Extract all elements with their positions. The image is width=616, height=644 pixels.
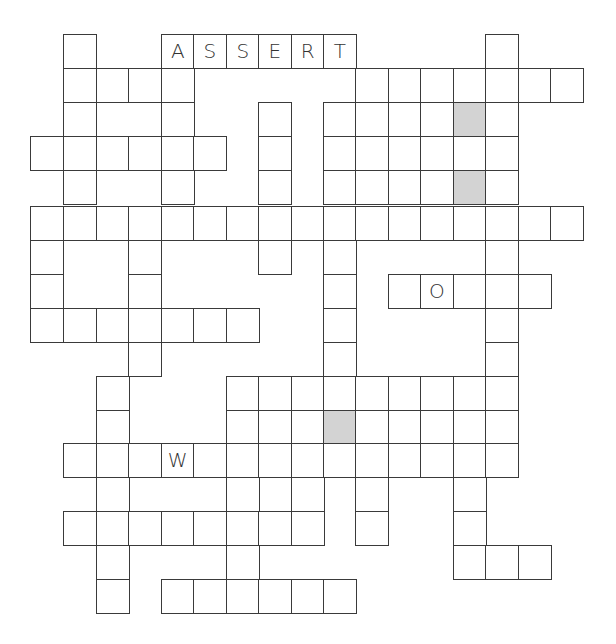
crossword-cell[interactable] [30, 240, 64, 275]
crossword-cell[interactable] [420, 170, 454, 205]
crossword-cell[interactable] [96, 206, 130, 241]
crossword-cell[interactable] [323, 308, 357, 343]
crossword-cell[interactable] [355, 68, 389, 103]
crossword-cell[interactable] [161, 136, 195, 171]
crossword-cell[interactable] [128, 240, 162, 275]
crossword-cell[interactable] [291, 410, 325, 445]
crossword-cell[interactable]: R [291, 34, 325, 69]
crossword-cell[interactable] [193, 136, 227, 171]
crossword-cell[interactable] [453, 410, 487, 445]
crossword-cell[interactable] [485, 376, 519, 411]
crossword-cell[interactable] [161, 68, 195, 103]
crossword-cell[interactable] [193, 206, 227, 241]
crossword-cell[interactable] [226, 410, 260, 445]
crossword-cell[interactable] [323, 443, 357, 478]
crossword-cell[interactable] [453, 477, 487, 512]
crossword-cell[interactable] [161, 206, 195, 241]
crossword-cell[interactable] [485, 443, 519, 478]
crossword-cell[interactable] [485, 545, 519, 580]
crossword-cell[interactable] [63, 308, 97, 343]
crossword-cell[interactable] [355, 443, 389, 478]
crossword-cell[interactable] [128, 274, 162, 309]
crossword-cell[interactable] [485, 274, 519, 309]
crossword-cell[interactable] [518, 545, 552, 580]
crossword-cell[interactable] [128, 443, 162, 478]
crossword-cell[interactable]: S [226, 34, 260, 69]
crossword-cell[interactable] [323, 102, 357, 137]
crossword-cell[interactable] [226, 443, 260, 478]
crossword-cell[interactable] [518, 68, 552, 103]
crossword-cell[interactable] [388, 206, 422, 241]
crossword-cell[interactable] [63, 136, 97, 171]
crossword-cell[interactable] [420, 136, 454, 171]
crossword-cell[interactable] [258, 136, 292, 171]
crossword-cell[interactable] [63, 34, 97, 69]
crossword-cell[interactable] [258, 376, 292, 411]
crossword-cell[interactable] [193, 579, 227, 614]
crossword-cell[interactable] [128, 308, 162, 343]
crossword-cell[interactable] [485, 240, 519, 275]
crossword-cell[interactable] [96, 68, 130, 103]
crossword-cell[interactable] [226, 477, 260, 512]
crossword-cell[interactable] [30, 206, 64, 241]
crossword-cell[interactable] [226, 206, 260, 241]
crossword-cell[interactable] [128, 68, 162, 103]
crossword-cell[interactable] [258, 579, 292, 614]
crossword-cell[interactable] [355, 410, 389, 445]
crossword-cell[interactable] [323, 376, 357, 411]
crossword-cell[interactable] [355, 477, 389, 512]
crossword-cell[interactable] [420, 68, 454, 103]
crossword-cell[interactable] [128, 511, 162, 546]
crossword-cell[interactable] [258, 102, 292, 137]
crossword-cell[interactable] [485, 206, 519, 241]
crossword-cell[interactable]: W [161, 443, 195, 478]
crossword-cell[interactable] [30, 274, 64, 309]
crossword-cell[interactable]: T [323, 34, 357, 69]
crossword-cell[interactable] [485, 170, 519, 205]
crossword-cell[interactable] [518, 274, 552, 309]
crossword-cell[interactable] [388, 68, 422, 103]
crossword-cell[interactable] [420, 102, 454, 137]
crossword-cell[interactable] [355, 170, 389, 205]
crossword-cell[interactable] [355, 511, 389, 546]
crossword-cell[interactable] [63, 511, 97, 546]
crossword-cell-shaded[interactable] [453, 102, 487, 137]
crossword-cell[interactable] [258, 511, 292, 546]
crossword-cell[interactable] [128, 342, 162, 377]
crossword-cell[interactable] [355, 376, 389, 411]
crossword-cell[interactable] [226, 511, 260, 546]
crossword-cell-shaded[interactable] [323, 410, 357, 445]
crossword-cell[interactable] [161, 102, 195, 137]
crossword-cell[interactable] [193, 511, 227, 546]
crossword-cell[interactable] [258, 443, 292, 478]
crossword-cell[interactable] [420, 376, 454, 411]
crossword-cell[interactable] [96, 477, 130, 512]
crossword-cell[interactable] [355, 102, 389, 137]
crossword-cell[interactable] [30, 308, 64, 343]
crossword-cell[interactable] [258, 170, 292, 205]
crossword-cell[interactable] [63, 206, 97, 241]
crossword-cell[interactable] [388, 136, 422, 171]
crossword-cell[interactable]: A [161, 34, 195, 69]
crossword-cell[interactable] [485, 410, 519, 445]
crossword-cell[interactable] [388, 376, 422, 411]
crossword-cell[interactable] [355, 206, 389, 241]
crossword-cell[interactable] [388, 410, 422, 445]
crossword-cell[interactable] [258, 206, 292, 241]
crossword-cell[interactable] [485, 136, 519, 171]
crossword-cell[interactable] [453, 136, 487, 171]
crossword-cell[interactable] [96, 376, 130, 411]
crossword-cell[interactable] [453, 376, 487, 411]
crossword-cell[interactable] [96, 545, 130, 580]
crossword-cell[interactable] [453, 545, 487, 580]
crossword-cell[interactable] [161, 170, 195, 205]
crossword-cell[interactable] [323, 240, 357, 275]
crossword-cell[interactable] [63, 102, 97, 137]
crossword-cell[interactable] [96, 511, 130, 546]
crossword-cell[interactable] [291, 376, 325, 411]
crossword-cell[interactable] [453, 68, 487, 103]
crossword-cell[interactable] [420, 410, 454, 445]
crossword-cell[interactable] [96, 443, 130, 478]
crossword-cell[interactable] [193, 308, 227, 343]
crossword-cell[interactable] [485, 102, 519, 137]
